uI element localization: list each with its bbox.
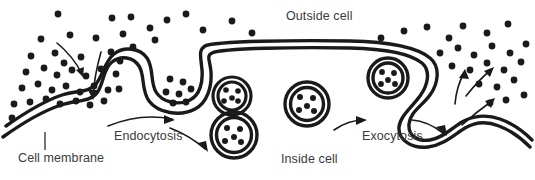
extracellular-particles-left [9, 11, 256, 122]
label-exocytosis: Exocytosis [362, 129, 423, 143]
label-endocytosis: Endocytosis [114, 129, 183, 143]
cell-transport-diagram: Outside cell Endocytosis Cell membrane I… [0, 0, 535, 180]
endocytosis-arrowhead-right [198, 141, 208, 152]
endocytosis-arrow-left [108, 117, 172, 126]
endocytosis-arrowhead-left [164, 115, 175, 124]
intake-arrowhead-1 [76, 67, 84, 77]
diagram-canvas: Outside cell Endocytosis Cell membrane I… [0, 0, 535, 180]
endocytic-vesicle-lower [211, 112, 257, 158]
label-inside-cell: Inside cell [281, 152, 338, 166]
vesicle-group [211, 58, 408, 158]
exocytic-vesicle-fusing [368, 58, 408, 98]
membrane-inner-leaflet [3, 48, 530, 148]
cytoplasmic-vesicle [285, 82, 329, 126]
label-cell-membrane: Cell membrane [18, 151, 104, 165]
label-outside-cell: Outside cell [286, 9, 353, 23]
membrane-outer-leaflet [6, 41, 532, 141]
exocytosis-arrowhead-left [356, 116, 367, 125]
endocytic-vesicle-upper [213, 77, 251, 115]
